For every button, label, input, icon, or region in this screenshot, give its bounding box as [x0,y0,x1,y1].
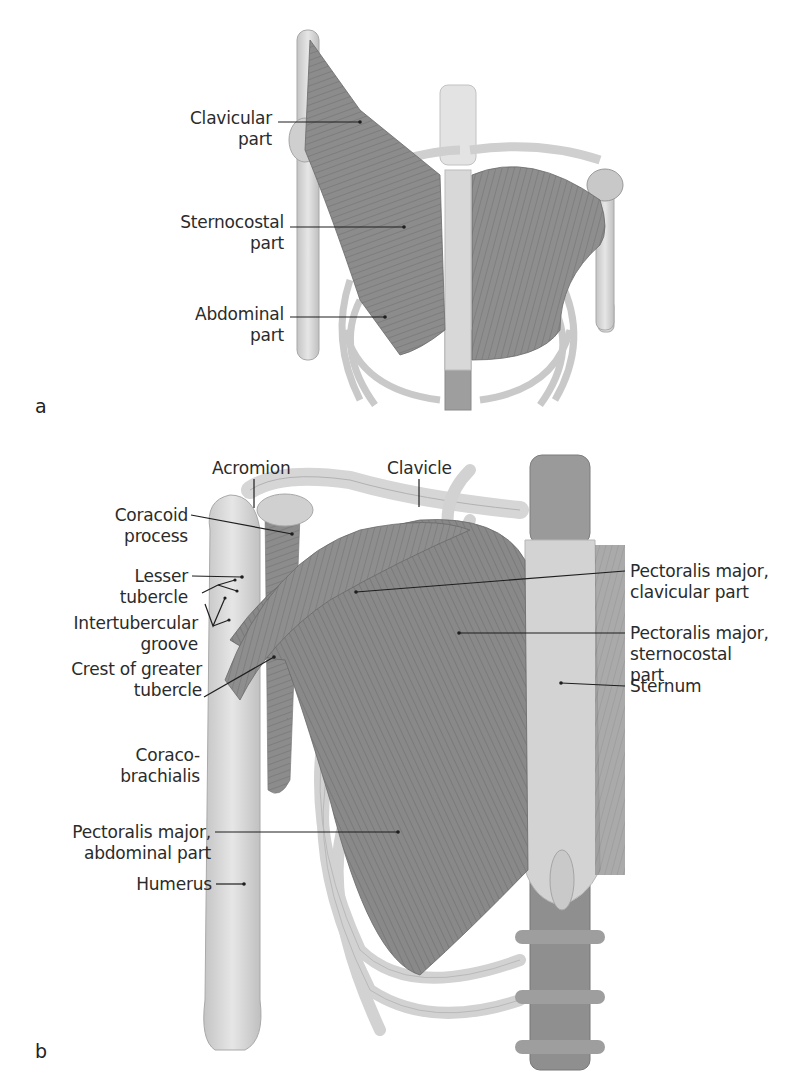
label-clavicle: Clavicle [387,458,452,479]
label-line: process [124,526,188,546]
label-abdominal-part: Abdominalpart [150,304,284,346]
label-line: Intertubercular [74,613,198,633]
label-line: tubercle [134,680,202,700]
panel-letter-a: a [35,395,47,417]
label-clavicular-part: Clavicularpart [150,108,272,150]
label-lesser-tubercle: Lessertubercle [60,566,188,608]
anatomy-figure: Clavicularpart Sternocostalpart Abdomina… [0,0,798,1072]
panel-letter-b: b [35,1040,47,1062]
label-pectoralis-major-clavicular-part: Pectoralis major,clavicular part [630,561,769,603]
label-crest-of-greater-tubercle: Crest of greatertubercle [40,659,202,701]
label-line: clavicular part [630,582,749,602]
label-line: Pectoralis major, [630,623,769,643]
label-line: Crest of greater [71,659,202,679]
label-line: Sternocostal [180,212,284,232]
label-pectoralis-major-abdominal-part: Pectoralis major,abdominal part [40,822,211,864]
label-line: Pectoralis major, [72,822,211,842]
label-line: Lesser [134,566,188,586]
label-line: groove [140,634,198,654]
label-humerus: Humerus [100,874,212,895]
label-coracobrachialis: Coraco-brachialis [60,745,200,787]
label-line: part [250,325,284,345]
label-line: Clavicular [190,108,272,128]
label-intertubercular-groove: Intertuberculargroove [40,613,198,655]
label-sternum: Sternum [630,676,701,697]
label-line: abdominal part [84,843,211,863]
label-acromion: Acromion [212,458,291,479]
label-line: part [250,233,284,253]
label-line: brachialis [120,766,200,786]
label-line: Abdominal [195,304,284,324]
label-coracoid-process: Coracoidprocess [60,505,188,547]
label-line: part [238,129,272,149]
panel-a-illustration [289,30,623,410]
label-line: Coraco- [136,745,200,765]
label-line: Coracoid [115,505,188,525]
label-line: sternocostal [630,644,732,664]
panel-b-illustration [204,455,625,1070]
label-line: tubercle [120,587,188,607]
label-line: Pectoralis major, [630,561,769,581]
label-sternocostal-part: Sternocostalpart [150,212,284,254]
